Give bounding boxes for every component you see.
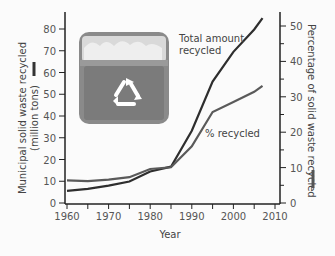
svg-text:1960: 1960: [54, 211, 79, 222]
svg-text:20: 20: [290, 127, 303, 138]
svg-text:70: 70: [43, 46, 56, 57]
svg-text:10: 10: [43, 176, 56, 187]
svg-text:1970: 1970: [96, 211, 121, 222]
svg-text:40: 40: [290, 56, 303, 67]
recycle-bin-photo: [79, 32, 169, 124]
svg-text:50: 50: [290, 21, 303, 32]
svg-text:10: 10: [290, 163, 303, 174]
chart: 1960197019801990200020100102030405060708…: [0, 0, 335, 256]
y-left-label-1: Municipal solid waste recycled: [17, 42, 28, 194]
svg-text:40: 40: [43, 111, 56, 122]
svg-text:0: 0: [290, 198, 296, 209]
svg-text:60: 60: [43, 68, 56, 79]
svg-text:30: 30: [290, 92, 303, 103]
svg-text:2010: 2010: [262, 211, 287, 222]
svg-text:0: 0: [50, 198, 56, 209]
svg-text:30: 30: [43, 133, 56, 144]
svg-text:1980: 1980: [137, 211, 162, 222]
annotation-pct: % recycled: [205, 128, 260, 139]
annotation-total-2: recycled: [179, 45, 221, 56]
svg-text:80: 80: [43, 24, 56, 35]
annotation-total: Total amount: [178, 33, 244, 44]
svg-text:20: 20: [43, 155, 56, 166]
y-left-label-2: (million tons): [29, 85, 40, 151]
svg-text:2000: 2000: [221, 211, 246, 222]
svg-text:50: 50: [43, 89, 56, 100]
svg-text:1990: 1990: [179, 211, 204, 222]
x-axis-label: Year: [158, 229, 181, 240]
